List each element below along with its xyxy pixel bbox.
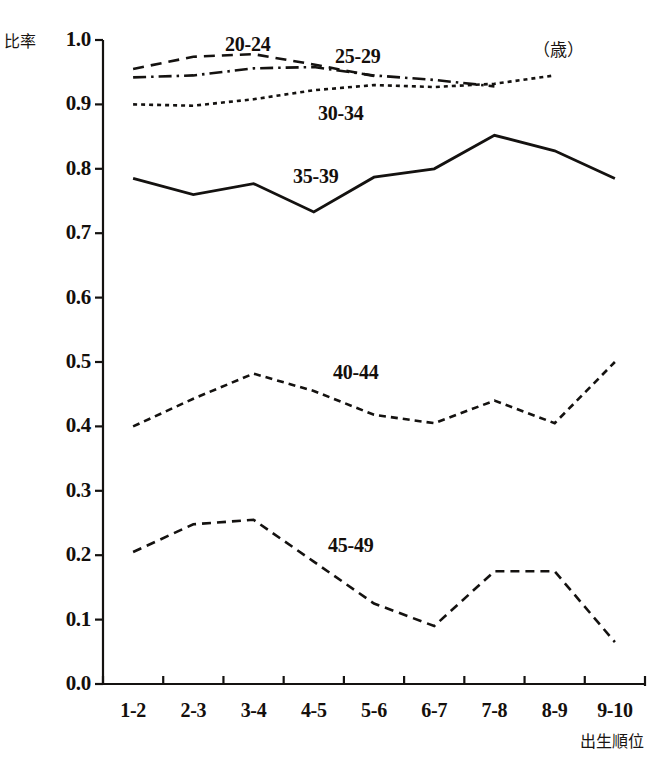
- x-axis-tick-label: 2-3: [159, 700, 227, 720]
- series-label-40-44: 40-44: [333, 362, 379, 382]
- y-axis-tick-label: 1.0: [33, 29, 91, 50]
- series-line-45-49: [133, 520, 615, 642]
- y-axis-tick-label: 0.4: [33, 415, 91, 436]
- series-line-35-39: [133, 135, 615, 212]
- y-axis-tick-label: 0.1: [33, 609, 91, 630]
- y-axis-tick-label: 0.3: [33, 480, 91, 501]
- y-axis-tick-label: 0.8: [33, 158, 91, 179]
- x-axis-tick-label: 9-10: [581, 700, 649, 720]
- y-axis-tick-label: 0.7: [33, 222, 91, 243]
- x-axis-tick-label: 7-8: [460, 700, 528, 720]
- x-axis-tick-label: 1-2: [99, 700, 167, 720]
- unit-note: （歳）: [533, 42, 584, 59]
- y-axis-tick-label: 0.9: [33, 93, 91, 114]
- y-axis-title: 比率: [4, 34, 36, 50]
- series-label-30-34: 30-34: [318, 103, 364, 123]
- y-axis-tick-label: 0.6: [33, 287, 91, 308]
- chart-figure: 1.00.90.80.70.60.50.40.30.20.10.0 1-22-3…: [0, 0, 671, 774]
- series-line-25-29: [133, 67, 494, 86]
- x-axis-tick-label: 4-5: [280, 700, 348, 720]
- y-axis-tick-label: 0.2: [33, 544, 91, 565]
- series-layer: [133, 54, 615, 642]
- series-label-20-24: 20-24: [225, 34, 271, 54]
- series-label-25-29: 25-29: [335, 46, 381, 66]
- x-axis-tick-label: 8-9: [521, 700, 589, 720]
- series-label-35-39: 35-39: [293, 166, 339, 186]
- y-axis-tick-label: 0.5: [33, 351, 91, 372]
- x-axis-tick-label: 5-6: [340, 700, 408, 720]
- series-label-45-49: 45-49: [328, 535, 374, 555]
- x-axis-title: 出生順位: [580, 734, 644, 750]
- x-axis-tick-label: 6-7: [400, 700, 468, 720]
- y-axis-tick-label: 0.0: [33, 673, 91, 694]
- x-axis-tick-label: 3-4: [220, 700, 288, 720]
